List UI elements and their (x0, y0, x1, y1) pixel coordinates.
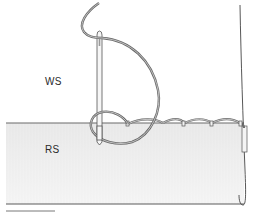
right-side-label: RS (45, 144, 60, 155)
fabric-right-side (6, 123, 244, 204)
sewing-diagram: WS RS (0, 0, 257, 212)
needle-front-segment (97, 126, 102, 140)
diagram-canvas (0, 0, 257, 212)
wrong-side-label: WS (45, 76, 62, 87)
